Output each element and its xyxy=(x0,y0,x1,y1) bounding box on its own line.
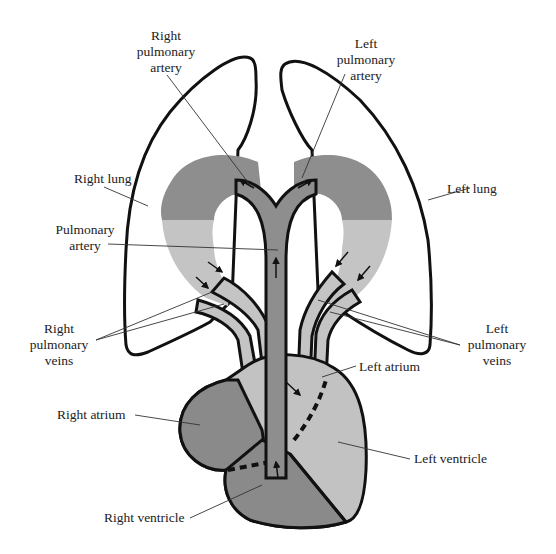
label-pulmonary-artery: Pulmonary artery xyxy=(50,222,120,254)
label-line: pulmonary xyxy=(326,52,406,68)
label-right-ventricle: Right ventricle xyxy=(104,510,185,526)
label-line: Left xyxy=(462,321,532,337)
label-line: artery xyxy=(126,60,206,76)
label-left-ventricle: Left ventricle xyxy=(414,451,487,467)
label-line: veins xyxy=(462,353,532,369)
label-line: Right xyxy=(126,28,206,44)
label-line: pulmonary xyxy=(126,44,206,60)
label-line: artery xyxy=(50,238,120,254)
label-line: Pulmonary xyxy=(50,222,120,238)
label-line: artery xyxy=(326,68,406,84)
label-line: pulmonary xyxy=(24,337,94,353)
label-line: Right xyxy=(24,321,94,337)
label-left-pulmonary-veins: Left pulmonary veins xyxy=(462,321,532,369)
label-right-atrium: Right atrium xyxy=(57,407,126,423)
label-line: pulmonary xyxy=(462,337,532,353)
diagram-graphic xyxy=(0,0,556,554)
label-line: Left xyxy=(326,36,406,52)
label-left-atrium: Left atrium xyxy=(359,359,420,375)
label-left-lung: Left lung xyxy=(447,181,497,197)
label-right-pulmonary-veins: Right pulmonary veins xyxy=(24,321,94,369)
label-right-pulmonary-artery: Right pulmonary artery xyxy=(126,28,206,76)
label-line: veins xyxy=(24,353,94,369)
label-right-lung: Right lung xyxy=(74,171,131,187)
label-left-pulmonary-artery: Left pulmonary artery xyxy=(326,36,406,84)
pulmonary-circulation-diagram: Right pulmonary artery Left pulmonary ar… xyxy=(0,0,556,554)
